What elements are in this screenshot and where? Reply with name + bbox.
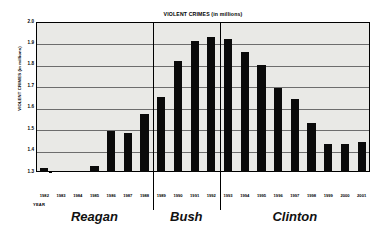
y-axis-tick-label: 1.5	[18, 127, 34, 132]
bar	[207, 37, 215, 172]
era-divider	[220, 22, 221, 210]
y-axis-tick-label: 1.6	[18, 105, 34, 110]
x-axis-tick-label: 1986	[102, 194, 120, 198]
bar	[341, 144, 349, 172]
y-axis-tick-label: 2.0	[18, 20, 34, 25]
x-axis-caption: YEAR	[33, 202, 45, 207]
bar	[157, 97, 165, 172]
x-axis-tick-label: 2001	[353, 194, 371, 198]
bar	[124, 133, 132, 172]
y-axis-tick-mark	[49, 172, 52, 173]
bar	[358, 142, 366, 172]
y-axis-tick-label: 1.4	[18, 148, 34, 153]
x-axis-tick-label: 1997	[286, 194, 304, 198]
x-axis-tick-labels: 1982198319841985198619871988198919901991…	[36, 194, 370, 204]
x-axis-tick-label: 1996	[269, 194, 287, 198]
bar	[90, 166, 98, 172]
chart-title: VIOLENT CRIMES (in millions)	[36, 11, 370, 17]
x-axis-tick-label: 1995	[252, 194, 270, 198]
x-axis-tick-label: 1988	[136, 194, 154, 198]
bar	[107, 131, 115, 172]
x-axis-tick-label: 1983	[52, 194, 70, 198]
bar	[241, 52, 249, 172]
x-axis-tick-label: 1994	[236, 194, 254, 198]
era-label: Clinton	[235, 209, 355, 224]
x-axis-tick-label: 1993	[219, 194, 237, 198]
bar	[274, 88, 282, 172]
x-axis-tick-label: 1982	[35, 194, 53, 198]
bar	[40, 168, 48, 172]
x-axis-tick-label: 2000	[336, 194, 354, 198]
era-label: Bush	[126, 209, 246, 224]
bar	[140, 114, 148, 172]
x-axis-tick-label: 1985	[85, 194, 103, 198]
y-axis-tick-labels: 2.01.91.81.71.61.51.41.3	[16, 0, 34, 237]
x-axis-tick-label: 1987	[119, 194, 137, 198]
bar	[191, 41, 199, 172]
x-axis-tick-label: 1999	[319, 194, 337, 198]
y-axis-tick-label: 1.9	[18, 41, 34, 46]
x-axis-tick-label: 1992	[202, 194, 220, 198]
bar	[174, 61, 182, 172]
bar	[291, 99, 299, 172]
y-axis-tick-label: 1.3	[18, 170, 34, 175]
bar	[307, 123, 315, 172]
era-divider	[153, 22, 154, 210]
x-axis-tick-label: 1984	[69, 194, 87, 198]
x-axis-tick-label: 1991	[186, 194, 204, 198]
violent-crimes-chart-screenshot: VIOLENT CRIMES (in millions) VIOLENT CRI…	[0, 0, 384, 237]
x-axis-tick-label: 1990	[169, 194, 187, 198]
y-axis-tick-label: 1.8	[18, 62, 34, 67]
x-axis-tick-label: 1989	[152, 194, 170, 198]
bar	[224, 39, 232, 172]
y-axis-tick-label: 1.7	[18, 84, 34, 89]
bar	[324, 144, 332, 172]
x-axis-tick-label: 1998	[303, 194, 321, 198]
bar-series	[36, 22, 370, 172]
bar	[257, 65, 265, 172]
